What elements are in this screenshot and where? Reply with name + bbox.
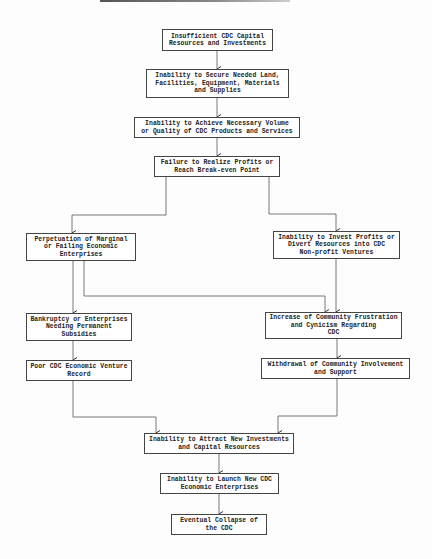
node-poor-venture-record: Poor CDC Economic Venture Record bbox=[26, 360, 132, 381]
node-marginal-enterprises: Perpetuation of Marginal or Failing Econ… bbox=[26, 233, 136, 261]
node-invest-profits: Inability to Invest Profits or Divert Re… bbox=[273, 231, 400, 259]
node-insufficient-capital: Insufficient CDC Capital Resources and I… bbox=[162, 29, 273, 51]
node-secure-land-facilities: Inability to Secure Needed Land, Facilit… bbox=[146, 69, 289, 98]
edge-n4-n5 bbox=[72, 177, 166, 233]
node-launch-enterprises: Inability to Launch New CDC Economic Ent… bbox=[160, 473, 279, 494]
edge-n5-n8 bbox=[84, 260, 325, 312]
edge-n4-n6 bbox=[269, 177, 336, 231]
edge-n9-n11 bbox=[73, 381, 156, 433]
node-failure-realize-profits: Failure to Realize Profits or Reach Brea… bbox=[154, 156, 280, 177]
node-community-frustration: Increase of Community Frustration and Cy… bbox=[265, 312, 402, 339]
node-bankruptcy-subsidies: Bankruptcy or Enterprises Needing Perman… bbox=[26, 313, 132, 341]
node-eventual-collapse: Eventual Collapse of the CDC bbox=[171, 514, 267, 535]
node-attract-investments: Inability to Attract New Investments and… bbox=[144, 433, 294, 454]
node-achieve-volume-quality: Inability to Achieve Necessary Volume or… bbox=[134, 117, 300, 138]
edge-n10-n11 bbox=[278, 379, 337, 433]
node-withdrawal-community: Withdrawal of Community Involvement and … bbox=[261, 358, 410, 379]
